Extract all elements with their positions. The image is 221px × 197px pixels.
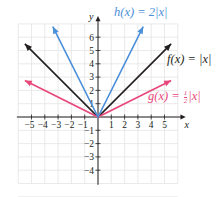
x-tick-label: −3 xyxy=(51,120,61,130)
x-tick-label: −2 xyxy=(64,120,74,130)
y-tick-label: 3 xyxy=(89,72,94,82)
y-axis-arrow-icon xyxy=(96,16,101,21)
y-tick-label: −3 xyxy=(84,152,94,162)
x-tick-label: 5 xyxy=(162,120,167,130)
y-tick-label: 2 xyxy=(89,86,94,96)
x-tick-label: 4 xyxy=(149,120,154,130)
y-tick-label: 5 xyxy=(89,46,94,56)
h-function-label: h(x) = 2|x| xyxy=(114,6,167,19)
f-function-label: f(x) = |x| xyxy=(167,53,211,66)
y-axis-label: y xyxy=(88,11,94,22)
y-tick-label: 6 xyxy=(89,33,94,43)
g-label-prefix: g(x) = xyxy=(148,89,183,103)
y-tick-label: 4 xyxy=(89,59,94,69)
y-tick-label: −1 xyxy=(84,126,94,136)
y-tick-label: −4 xyxy=(84,166,94,176)
x-tick-label: 3 xyxy=(136,120,141,130)
x-axis-label: x xyxy=(183,119,189,130)
y-tick-label: −2 xyxy=(84,139,94,149)
g-function-label: g(x) = 12|x| xyxy=(148,90,201,105)
x-tick-label: 1 xyxy=(109,120,114,130)
x-tick-label: 2 xyxy=(122,120,127,130)
g-label-denominator: 2 xyxy=(184,98,188,105)
g-label-suffix: |x| xyxy=(188,89,200,103)
x-tick-label: −5 xyxy=(24,120,34,130)
x-tick-label: −4 xyxy=(38,120,48,130)
g-label-fraction: 12 xyxy=(184,90,188,105)
